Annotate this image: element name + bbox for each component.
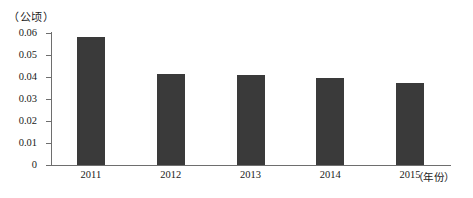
x-axis-unit-label: （年份） (413, 169, 454, 184)
y-axis-tick: 0.03 (46, 99, 51, 100)
bar (316, 78, 344, 165)
y-axis-tick-label: 0.02 (19, 114, 37, 127)
y-axis-tick-label: 0.03 (19, 92, 37, 105)
y-axis-tick-label: 0 (32, 158, 37, 171)
bar (77, 37, 105, 165)
bar (157, 74, 185, 165)
bar-chart-figure: （公顷） 00.010.020.030.040.050.06 201120122… (0, 0, 473, 198)
x-axis-tick-label: 2011 (51, 169, 131, 180)
bar (396, 83, 424, 166)
y-axis-tick-label: 0.06 (19, 26, 37, 39)
x-axis-tick-label: 2014 (290, 169, 370, 180)
y-axis-tick-label: 0.05 (19, 48, 37, 61)
y-axis-tick: 0 (46, 165, 51, 166)
bar (237, 75, 265, 165)
y-axis-unit-label: （公顷） (8, 8, 54, 24)
x-axis-tick-label: 2013 (211, 169, 291, 180)
x-axis-tick-label: 2012 (131, 169, 211, 180)
x-axis-line (51, 165, 451, 166)
y-axis-tick: 0.05 (46, 55, 51, 56)
y-axis-tick-label: 0.04 (19, 70, 37, 83)
y-axis-tick: 0.06 (46, 33, 51, 34)
y-axis-tick-label: 0.01 (19, 136, 37, 149)
y-axis-tick: 0.04 (46, 77, 51, 78)
y-axis-tick: 0.01 (46, 143, 51, 144)
plot-area: 00.010.020.030.040.050.06 (51, 33, 450, 165)
y-axis-tick: 0.02 (46, 121, 51, 122)
